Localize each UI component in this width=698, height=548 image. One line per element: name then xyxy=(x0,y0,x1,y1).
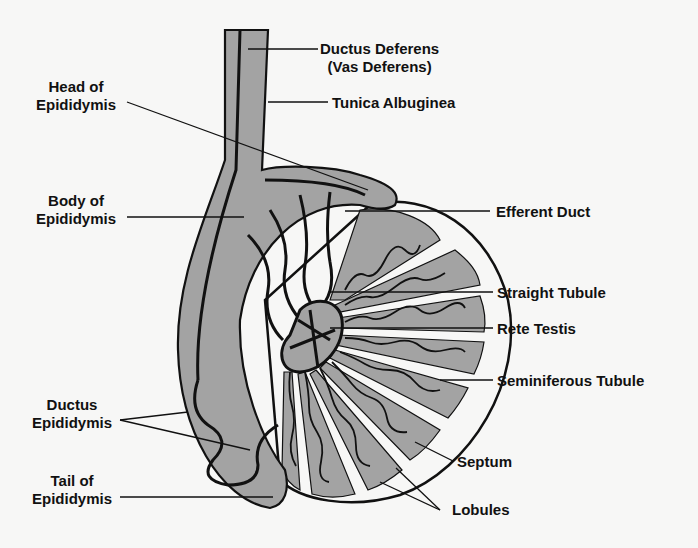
label-ductus-deferens: Ductus Deferens (Vas Deferens) xyxy=(320,40,439,76)
label-line: (Vas Deferens) xyxy=(320,58,439,76)
label-line: Body of xyxy=(36,192,116,210)
label-tunica-albuginea: Tunica Albuginea xyxy=(332,94,455,112)
label-line: Epididymis xyxy=(36,210,116,228)
label-ductus-epididymis: Ductus Epididymis xyxy=(32,396,112,432)
label-body-of-epididymis: Body of Epididymis xyxy=(36,192,116,228)
label-line: Ductus Deferens xyxy=(320,40,439,58)
label-septum: Septum xyxy=(457,453,512,471)
label-tail-of-epididymis: Tail of Epididymis xyxy=(32,472,112,508)
label-line: Head of xyxy=(36,78,116,96)
label-straight-tubule: Straight Tubule xyxy=(497,284,606,302)
label-head-of-epididymis: Head of Epididymis xyxy=(36,78,116,114)
label-rete-testis: Rete Testis xyxy=(497,320,576,338)
label-line: Epididymis xyxy=(36,96,116,114)
label-line: Tail of xyxy=(32,472,112,490)
label-line: Ductus xyxy=(32,396,112,414)
label-lobules: Lobules xyxy=(452,501,510,519)
label-seminiferous-tubule: Seminiferous Tubule xyxy=(497,372,644,390)
label-line: Epididymis xyxy=(32,490,112,508)
label-efferent-duct: Efferent Duct xyxy=(496,203,590,221)
label-line: Epididymis xyxy=(32,414,112,432)
